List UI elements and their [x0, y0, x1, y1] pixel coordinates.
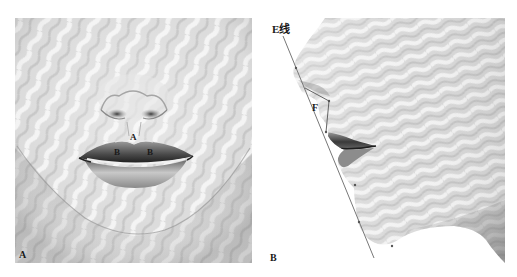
- profile-face: [258, 0, 517, 277]
- point-soft-tissue-b: [354, 184, 356, 186]
- left-nostril: [107, 109, 127, 119]
- point-nose-bridge: [295, 67, 297, 69]
- point-pogonion: [358, 221, 360, 223]
- profile-face-illustration: E线 F B: [258, 0, 517, 277]
- panel-b-corner-label: B: [270, 252, 277, 263]
- frontal-face-illustration: A B B A: [15, 18, 252, 263]
- panel-a-frontal-view: A B B A: [15, 18, 252, 263]
- point-subnasale: [328, 100, 330, 102]
- right-nostril: [141, 109, 161, 119]
- panel-b-profile-view: E线 F B: [258, 0, 517, 277]
- point-labrale-superius: [325, 131, 327, 133]
- panel-a-corner-label: A: [19, 249, 27, 260]
- label-a-philtrum: A: [130, 132, 137, 142]
- point-menton: [391, 245, 393, 247]
- label-e-line: E线: [272, 22, 290, 35]
- label-b-left-tubercle: B: [114, 147, 120, 157]
- nose: [97, 74, 169, 119]
- label-f-triangle: F: [312, 102, 318, 113]
- label-b-right-tubercle: B: [147, 147, 153, 157]
